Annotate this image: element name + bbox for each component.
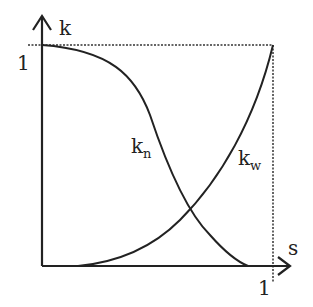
x-axis-label: s [288,236,298,260]
kw-label-subscript: w [250,158,261,173]
kn-label-subscript: n [143,146,152,161]
relative-permeability-diagram: k 1 s 1 k n k w [0,0,313,307]
y-tick-one: 1 [17,51,30,75]
y-axis-label: k [59,16,72,40]
x-tick-one: 1 [258,276,271,300]
